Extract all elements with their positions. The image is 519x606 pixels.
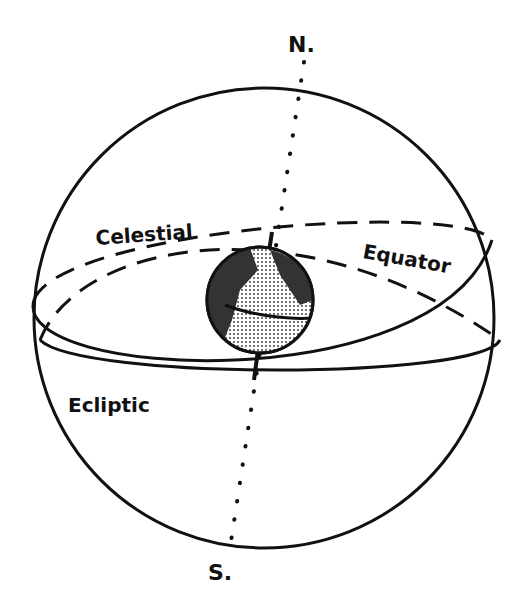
earth-globe (207, 247, 313, 353)
north-pole-label: N. (288, 32, 315, 57)
ecliptic-label: Ecliptic (68, 393, 150, 417)
south-pole-label: S. (208, 560, 232, 585)
celestial-label: Celestial (95, 219, 194, 250)
celestial-sphere-diagram: N. S. Celestial Equator Ecliptic (0, 0, 519, 606)
equator-label: Equator (361, 239, 453, 278)
diagram-canvas: N. S. Celestial Equator Ecliptic (0, 0, 519, 606)
